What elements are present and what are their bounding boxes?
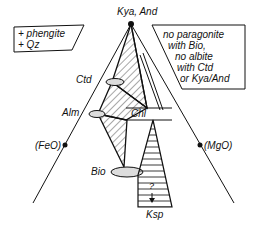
alm-label: Alm (62, 108, 79, 118)
right-note: no paragonite with Bio, no albite with C… (163, 29, 229, 84)
chl-label: Chl (131, 109, 146, 119)
unknown-label: ? (149, 182, 154, 191)
ksp-label: Ksp (146, 210, 163, 220)
left-note: + phengite + Qz (18, 28, 65, 50)
feo-label: (FeO) (35, 141, 61, 151)
apex-label: Kya, And (117, 7, 157, 17)
mgo-label: (MgO) (204, 141, 232, 151)
bio-label: Bio (91, 167, 105, 177)
ctd-label: Ctd (76, 75, 92, 85)
feo-dot (63, 143, 68, 148)
mgo-dot (198, 143, 203, 148)
